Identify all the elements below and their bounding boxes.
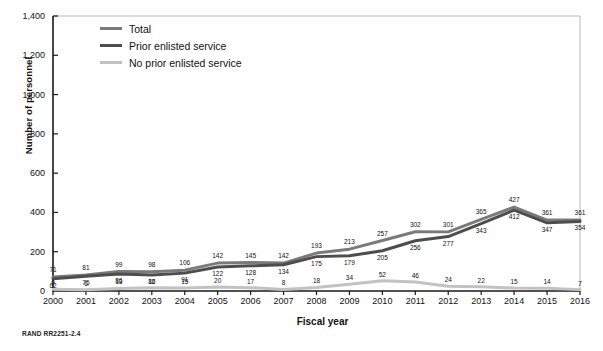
data-label-no-prior: 34 [346,274,353,281]
data-label-no-prior: 9 [51,279,55,286]
data-label-no-prior: 46 [412,272,419,279]
data-label-no-prior: 8 [282,279,286,286]
data-label-total: 365 [476,208,487,215]
data-label-total: 193 [311,242,322,249]
data-label-total: 361 [542,209,553,216]
data-label-prior: 343 [476,227,487,234]
legend-swatch [100,27,122,31]
legend-swatch [100,61,122,65]
data-label-no-prior: 17 [247,278,254,285]
data-label-prior: 347 [542,226,553,233]
data-label-prior: 134 [278,268,289,275]
chart-figure: Number of personnel Fiscal year 02004006… [0,0,603,351]
data-label-total: 142 [278,252,289,259]
legend-item: Prior enlisted service [100,37,242,54]
data-label-no-prior: 52 [379,271,386,278]
data-label-prior: 277 [443,240,454,247]
data-label-prior: 412 [509,213,520,220]
data-label-no-prior: 14 [543,278,550,285]
legend-item: Total [100,20,242,37]
data-label-no-prior: 7 [578,280,582,287]
data-label-total: 257 [377,230,388,237]
data-label-total: 81 [82,264,89,271]
data-label-prior: 122 [212,270,223,277]
data-label-prior: 256 [410,244,421,251]
data-label-total: 301 [443,221,454,228]
plot-area [0,0,603,351]
data-label-no-prior: 15 [511,278,518,285]
data-label-prior: 175 [311,260,322,267]
legend-item: No prior enlisted service [100,54,242,71]
data-label-prior: 354 [575,224,586,231]
data-label-total: 99 [115,261,122,268]
data-label-total: 98 [148,261,155,268]
data-label-prior: 205 [377,254,388,261]
credit-text: RAND RR2251-2.4 [22,330,81,337]
data-label-total: 213 [344,238,355,245]
data-label-total: 427 [509,196,520,203]
data-label-total: 71 [49,266,56,273]
data-label-no-prior: 6 [84,280,88,287]
legend-swatch [100,44,122,48]
chart-legend: TotalPrior enlisted serviceNo prior enli… [100,20,242,71]
data-label-no-prior: 24 [445,276,452,283]
data-label-prior: 128 [245,269,256,276]
legend-label: Total [129,23,151,35]
data-label-total: 106 [179,259,190,266]
figure-credit: RAND RR2251-2.4 [22,330,81,337]
data-label-total: 302 [410,221,421,228]
legend-label: No prior enlisted service [129,57,242,69]
data-label-no-prior: 22 [478,277,485,284]
legend-label: Prior enlisted service [129,40,226,52]
data-label-total: 361 [575,209,586,216]
data-label-no-prior: 16 [148,278,155,285]
data-label-no-prior: 20 [214,277,221,284]
data-label-total: 142 [212,252,223,259]
data-label-no-prior: 15 [181,278,188,285]
data-label-total: 145 [245,252,256,259]
data-label-prior: 179 [344,259,355,266]
data-label-no-prior: 18 [313,277,320,284]
data-label-no-prior: 13 [115,278,122,285]
